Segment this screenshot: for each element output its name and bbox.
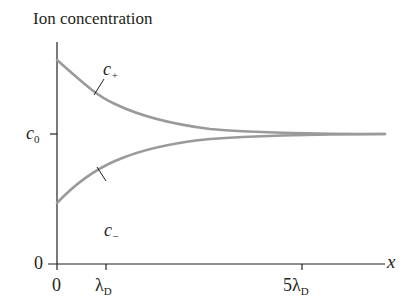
curve-c-minus <box>57 134 385 203</box>
cplus-symbol: c <box>103 59 111 79</box>
x-tick-label-zero: 0 <box>52 276 61 294</box>
cplus-subscript: + <box>111 69 118 81</box>
x-tick-label-5lambda: 5λD <box>283 276 309 294</box>
c0-symbol: c <box>26 123 34 143</box>
cminus-symbol: c <box>104 220 112 240</box>
chart-title: Ion concentration <box>33 10 152 27</box>
chart-canvas <box>0 0 420 304</box>
lambda-symbol-5: λ <box>292 275 301 295</box>
x-tick-label-lambda: λD <box>95 276 112 294</box>
c0-subscript: 0 <box>34 133 40 145</box>
y-tick-label-zero: 0 <box>34 254 43 272</box>
annotation-c-plus: c+ <box>103 60 118 78</box>
lambda-symbol: λ <box>95 275 104 295</box>
five-coefficient: 5 <box>283 275 292 295</box>
x-axis-label: x <box>387 252 395 271</box>
lambda-subscript-5: D <box>301 285 309 297</box>
lambda-subscript: D <box>104 285 112 297</box>
annotation-c-minus: c− <box>104 221 119 239</box>
y-tick-label-c0: c0 <box>26 124 40 142</box>
cminus-subscript: − <box>112 230 119 242</box>
leader-c-plus <box>94 79 104 95</box>
